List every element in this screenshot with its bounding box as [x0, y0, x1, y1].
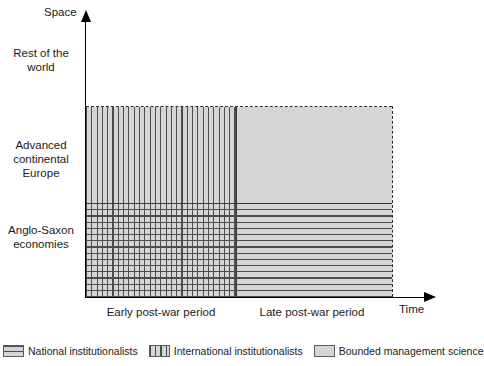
y-axis-label-advanced-continental-europe: Advanced continental Europe	[2, 138, 80, 180]
legend-label: International institutionalists	[174, 345, 303, 357]
plot-border-right	[392, 106, 393, 297]
y-axis-title: Space	[44, 6, 77, 18]
cell-early-anglo-saxon	[86, 203, 236, 297]
x-axis-title: Time	[399, 303, 424, 315]
legend-label: National institutionalists	[28, 345, 138, 357]
plot-border-top	[86, 106, 392, 107]
legend-swatch-solid-gray-icon	[314, 345, 335, 357]
legend-item-bounded-management-science: Bounded management science	[314, 345, 484, 357]
legend: National institutionalists International…	[3, 342, 448, 359]
legend-label: Bounded management science	[339, 345, 484, 357]
legend-item-national-institutionalists: National institutionalists	[3, 345, 138, 357]
legend-swatch-horizontal-stripes-icon	[3, 345, 24, 357]
legend-swatch-vertical-stripes-icon	[149, 345, 170, 357]
cell-early-advanced-europe	[86, 107, 236, 203]
y-axis-label-rest-of-world: Rest of the world	[2, 46, 80, 74]
plot-area	[86, 107, 392, 297]
period-divider-line	[236, 107, 237, 297]
y-axis-arrow-icon	[81, 10, 91, 22]
x-axis-label-early-post-war: Early post-war period	[101, 305, 221, 319]
space-divider-line	[86, 203, 392, 204]
y-axis-label-anglo-saxon-economies: Anglo-Saxon economies	[2, 223, 80, 251]
cell-late-advanced-europe	[236, 107, 392, 203]
x-axis-label-late-post-war: Late post-war period	[252, 305, 372, 319]
legend-item-international-institutionalists: International institutionalists	[149, 345, 303, 357]
x-axis-arrow-icon	[424, 292, 436, 302]
cell-late-anglo-saxon	[236, 203, 392, 297]
